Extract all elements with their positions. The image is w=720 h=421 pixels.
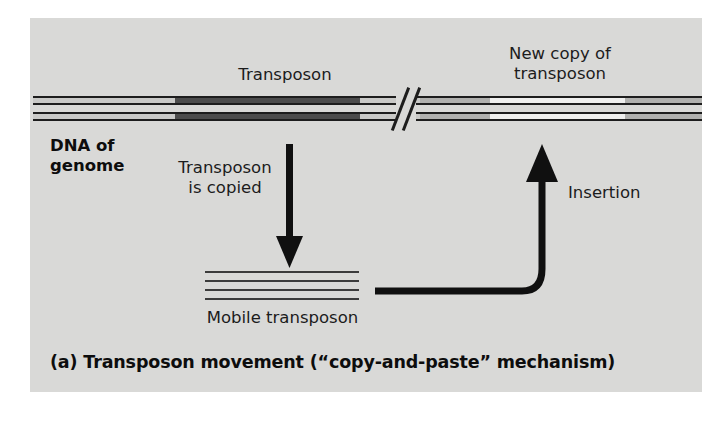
transposon-is-copied-arrow xyxy=(270,144,310,270)
dna-segment-left-flank-upper xyxy=(33,98,175,103)
dna-of-genome-label-line1: DNA of xyxy=(50,136,115,156)
caption-band: (a) Transposon movement (“copy-and-paste… xyxy=(30,340,702,392)
mobile-transposon-line-1 xyxy=(205,271,359,273)
dna-segment-transposon-upper xyxy=(175,98,360,103)
dna-segment-left-flank-lower xyxy=(33,114,175,119)
dna-segment-new-copy-upper xyxy=(490,98,625,103)
mobile-transposon-line-2 xyxy=(205,280,359,282)
dna-segment-new-copy-lower xyxy=(490,114,625,119)
transposon-figure: Transposon New copy of transposon xyxy=(0,0,720,421)
dna-segment-after-break-flank-lower xyxy=(420,114,490,119)
mobile-transposon-line-4 xyxy=(205,298,359,300)
mobile-transposon-label: Mobile transposon xyxy=(175,308,390,328)
dna-segment-transposon-lower xyxy=(175,114,360,119)
dna-segment-after-break-flank-upper xyxy=(420,98,490,103)
new-copy-label-line2: transposon xyxy=(460,64,660,84)
dna-segment-far-right-flank-lower xyxy=(625,114,702,119)
dna-upper-strand xyxy=(33,96,702,105)
dna-segment-right-of-transposon-lower xyxy=(360,114,396,119)
insertion-label: Insertion xyxy=(568,183,640,203)
dna-of-genome-label-line2: genome xyxy=(50,156,124,176)
new-copy-label-line1: New copy of xyxy=(460,44,660,64)
insertion-arrow xyxy=(370,128,600,308)
mobile-transposon-line-3 xyxy=(205,289,359,291)
dna-segment-right-of-transposon-upper xyxy=(360,98,396,103)
figure-caption: (a) Transposon movement (“copy-and-paste… xyxy=(50,352,615,372)
dna-segment-far-right-flank-upper xyxy=(625,98,702,103)
illustration-panel: Transposon New copy of transposon xyxy=(30,18,702,340)
transposon-label: Transposon xyxy=(195,65,375,85)
mobile-transposon xyxy=(205,271,359,301)
dna-lower-strand xyxy=(33,112,702,121)
